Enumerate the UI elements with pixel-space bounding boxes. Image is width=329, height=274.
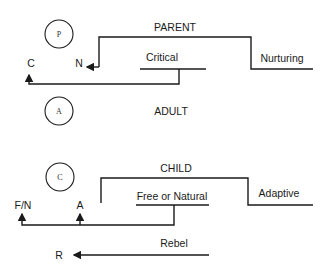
child-circle-label: C xyxy=(57,173,62,182)
critical-label: Critical xyxy=(146,51,178,63)
ego-state-diagram: P PARENT Critical Nurturing C N A ADULT … xyxy=(0,0,329,274)
adult-circle-label: A xyxy=(56,107,62,116)
parent-circle-label: P xyxy=(57,30,62,39)
child-circle: C xyxy=(46,163,74,191)
nurturing-label: Nurturing xyxy=(260,52,303,64)
rebel-label: Rebel xyxy=(160,237,187,249)
marker-c: C xyxy=(27,57,35,69)
critical-arrow xyxy=(29,69,179,84)
adaptive-label: Adaptive xyxy=(259,187,300,199)
free-natural-arrow xyxy=(22,205,174,225)
parent-title: PARENT xyxy=(154,21,196,33)
adult-title: ADULT xyxy=(154,105,188,117)
marker-a: A xyxy=(76,199,83,211)
adult-circle: A xyxy=(45,97,73,125)
free-natural-label: Free or Natural xyxy=(137,190,208,202)
parent-circle: P xyxy=(45,20,73,48)
marker-n: N xyxy=(75,57,83,69)
child-title: CHILD xyxy=(160,162,192,174)
marker-fn: F/N xyxy=(15,199,32,211)
marker-r: R xyxy=(55,249,63,261)
